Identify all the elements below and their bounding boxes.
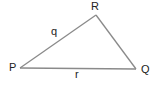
- triangle-shape: [0, 0, 159, 88]
- side-pr: [20, 15, 96, 68]
- vertex-label-q: Q: [141, 64, 150, 75]
- side-rq: [96, 15, 136, 69]
- vertex-label-r: R: [91, 1, 99, 12]
- side-label-q: q: [51, 26, 57, 37]
- side-label-r: r: [75, 69, 79, 80]
- vertex-label-p: P: [9, 62, 16, 73]
- triangle-diagram: P R Q q r: [0, 0, 159, 88]
